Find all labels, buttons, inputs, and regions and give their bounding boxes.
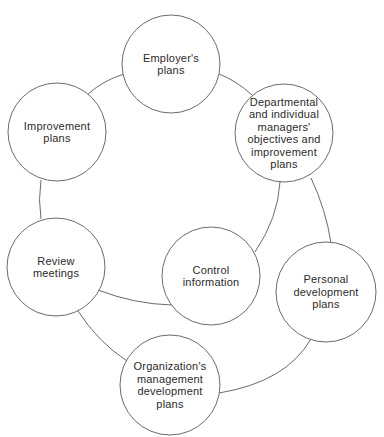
- node-circle-review-meetings: [7, 218, 105, 316]
- connector-review-meetings-to-control-information: [98, 290, 172, 305]
- connector-organizations-management-development-plans-to-personal-development-plans: [219, 339, 311, 393]
- connector-departmental-objectives-to-personal-development-plans: [311, 178, 331, 243]
- connector-improvement-plans-to-review-meetings: [40, 180, 42, 219]
- connector-control-information-to-departmental-objectives: [255, 182, 280, 252]
- node-circle-organizations-management-development-plans: [120, 335, 220, 435]
- connector-review-meetings-to-organizations-management-development-plans: [78, 311, 127, 361]
- node-circle-improvement-plans: [8, 83, 106, 181]
- node-circle-employers-plans: [122, 15, 220, 113]
- cycle-diagram: [0, 0, 384, 437]
- connector-employers-plans-to-departmental-objectives: [219, 74, 252, 95]
- node-circle-personal-development-plans: [276, 242, 376, 342]
- node-group: [7, 15, 376, 435]
- node-circle-departmental-objectives: [235, 84, 333, 182]
- node-circle-control-information: [162, 227, 260, 325]
- connector-improvement-plans-to-employers-plans: [88, 74, 124, 94]
